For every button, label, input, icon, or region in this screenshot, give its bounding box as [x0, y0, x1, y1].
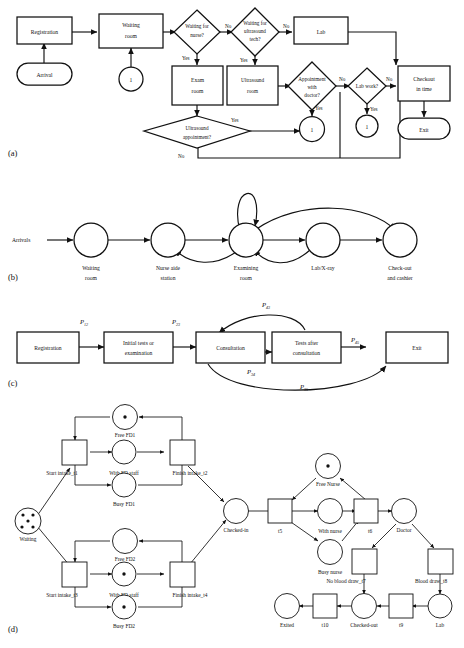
node-examining-room[interactable] [229, 223, 263, 257]
edge-label-usappt-no: No [178, 153, 185, 159]
transition-t5[interactable] [268, 499, 292, 523]
panel-c-diagram: Registration Initial tests or examinatio… [0, 292, 464, 392]
decision-lab-work-label: Lab work? [356, 83, 379, 89]
panel-d-arcs-right [248, 478, 440, 606]
transition-no-blood-draw-t7[interactable] [352, 549, 377, 574]
decision-us-label-1: Waiting for [243, 20, 267, 26]
place-free-fd2-label: Free FD2 [115, 556, 136, 562]
place-exited[interactable] [275, 594, 300, 619]
panel-a-label: (a) [8, 148, 17, 158]
panel-d: Waiting Free FD1 Start intake_t1 With FD… [0, 396, 464, 648]
edge-label-us-no: No [283, 23, 290, 29]
place-with-nurse-label: With nurse [318, 528, 342, 534]
token [326, 464, 329, 467]
node-initial-tests-label-1: Initial tests or [123, 340, 154, 346]
transition-start-intake-t3-label: Start intake_t3 [46, 592, 78, 598]
place-busy-fd1[interactable] [112, 473, 136, 497]
panel-c-label: (c) [8, 378, 17, 388]
node-waiting-room-label-2: room [85, 275, 97, 281]
node-ultrasound-room[interactable] [227, 66, 278, 105]
place-free-nurse-label: Free Nurse [316, 481, 340, 487]
decision-nurse-label-1: Waiting for [185, 23, 209, 29]
transition-t9[interactable] [389, 594, 413, 618]
place-with-fd-staff-1[interactable] [112, 440, 136, 464]
transition-t10[interactable] [313, 594, 337, 618]
edge-label-appt-yes: Yes [315, 105, 323, 111]
node-lab-xray-label-1: Lab/X-ray [311, 265, 334, 271]
transition-label-p45: P45 [350, 336, 359, 345]
resource-doctor-label: 1 [311, 127, 314, 133]
node-tests-after-label-2: consultation [293, 350, 321, 356]
token [123, 415, 126, 418]
node-ultrasound-room-label-1: Ultrasound [241, 77, 264, 83]
node-tests-after-label-1: Tests after [295, 340, 318, 346]
node-waiting-room[interactable] [74, 223, 108, 257]
node-arrival-label: Arrival [36, 72, 53, 78]
transition-finish-intake-t4-label: Finish intake_t4 [173, 592, 208, 598]
node-exam-room[interactable] [172, 66, 223, 105]
transition-no-blood-draw-t7-label: No blood draw_t7 [326, 578, 366, 584]
place-doctor[interactable] [392, 499, 417, 524]
resource-lab-label: 1 [366, 124, 369, 130]
node-exam-room-label-2: room [192, 88, 204, 94]
transition-t6-label: t6 [368, 528, 372, 534]
transition-start-intake-t3[interactable] [62, 562, 87, 587]
node-checkout[interactable] [398, 66, 450, 101]
token [26, 519, 29, 522]
node-initial-tests[interactable] [104, 332, 173, 363]
transition-t10-label: t10 [322, 622, 329, 628]
place-with-nurse[interactable] [318, 499, 343, 524]
place-busy-nurse-label: Busy nurse [318, 569, 343, 575]
node-waiting-room-label-1: Waiting [82, 265, 100, 271]
transition-blood-draw-t8[interactable] [428, 549, 453, 574]
edge-label-appt-no: No [339, 76, 346, 82]
token [20, 525, 23, 528]
panel-d-nodes: Waiting Free FD1 Start intake_t1 With FD… [15, 405, 453, 630]
node-waiting-room[interactable] [99, 14, 163, 48]
panel-a: Registration Arrival Waiting room 1 Wait… [0, 0, 464, 172]
node-registration-label: Registration [31, 29, 59, 35]
node-checkout-label-1: Check-out [388, 265, 412, 271]
node-nurse-aide-station[interactable] [151, 223, 185, 257]
node-lab-xray[interactable] [306, 223, 340, 257]
transition-finish-intake-t4[interactable] [170, 562, 195, 587]
transition-finish-intake-t2[interactable] [170, 440, 195, 465]
node-tests-after-consultation[interactable] [272, 332, 341, 363]
panel-d-label: (d) [8, 624, 18, 634]
panel-b-label: (b) [8, 272, 18, 282]
edge-label-nurse-no: No [225, 23, 232, 29]
node-waiting-room-label-2: room [125, 33, 137, 39]
node-consultation-label: Consultation [216, 345, 245, 351]
place-busy-nurse[interactable] [318, 540, 343, 565]
transition-t6[interactable] [354, 499, 378, 523]
place-checked-out[interactable] [352, 594, 377, 619]
panel-b-diagram: Arrivals Waiting room Nurse aide station… [0, 176, 464, 290]
decision-appt-label-1: Appointment [298, 76, 326, 82]
place-free-fd2[interactable] [113, 529, 138, 554]
node-exit-label: Exit [412, 345, 422, 351]
node-checkout-label-2: and cashier [387, 275, 412, 281]
resource-waiting-room-label: 1 [130, 77, 133, 83]
place-doctor-label: Doctor [397, 527, 412, 533]
decision-us-label-3: tech? [250, 36, 262, 42]
place-lab[interactable] [428, 594, 452, 618]
token [31, 525, 34, 528]
edge-label-labwork-no: No [386, 76, 393, 82]
place-lab-label: Lab [436, 622, 445, 628]
node-nurse-aide-label-2: station [161, 275, 176, 281]
source-arrivals-label: Arrivals [12, 237, 30, 243]
node-checkout-label-2: in time [416, 86, 432, 92]
node-checkout-cashier[interactable] [383, 223, 417, 257]
place-checked-in[interactable] [224, 499, 249, 524]
place-busy-fd2-label: Busy FD2 [113, 623, 135, 629]
panel-d-diagram: Waiting Free FD1 Start intake_t1 With FD… [0, 396, 464, 648]
transition-start-intake-t1[interactable] [62, 440, 87, 465]
transition-start-intake-t1-label: Start intake_t1 [46, 470, 78, 476]
node-nurse-aide-label-1: Nurse aide [156, 265, 181, 271]
node-checkout-label-1: Checkout [413, 76, 435, 82]
node-examining-room-label-1: Examining [234, 265, 259, 271]
place-waiting-label: Waiting [20, 536, 37, 542]
panel-b: Arrivals Waiting room Nurse aide station… [0, 176, 464, 290]
node-exam-room-label-1: Exam [191, 77, 205, 83]
place-free-fd1-label: Free FD1 [115, 432, 136, 438]
